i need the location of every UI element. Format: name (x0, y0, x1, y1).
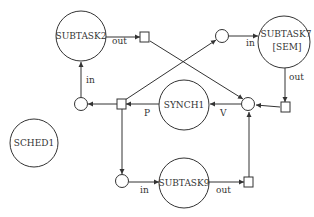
label-subtask2-in: in (86, 75, 95, 85)
transition-subtask7-out[interactable] (281, 102, 290, 112)
node-subtask2-label: SUBTASK2 (56, 31, 107, 41)
node-subtask9-label: SUBTASK9 (159, 178, 210, 188)
transition-subtask2-out[interactable] (140, 32, 149, 42)
label-synch1-v: V (219, 108, 227, 118)
label-subtask7-in: in (246, 38, 255, 48)
label-synch1-p: P (144, 108, 150, 118)
node-subtask2[interactable]: SUBTASK2 (56, 11, 107, 61)
node-synch1[interactable]: SYNCH1 (159, 80, 209, 130)
node-subtask7[interactable]: SUBTASK7 [SEM] (258, 16, 312, 68)
label-subtask7-out: out (289, 72, 304, 82)
node-subtask7-sublabel: [SEM] (273, 42, 302, 52)
place-v[interactable] (242, 98, 255, 111)
node-sched1-label: SCHED1 (14, 138, 54, 148)
label-subtask9-out: out (216, 185, 231, 195)
label-subtask2-out: out (112, 36, 127, 46)
node-subtask7-label: SUBTASK7 (261, 29, 312, 39)
transition-subtask9-out[interactable] (244, 177, 253, 187)
node-sched1[interactable]: SCHED1 (10, 119, 58, 167)
place-top[interactable] (216, 30, 229, 43)
place-left[interactable] (75, 98, 88, 111)
place-bottom[interactable] (116, 175, 129, 188)
node-subtask9[interactable]: SUBTASK9 (159, 158, 210, 208)
edge-transition-to-v-place-2 (256, 105, 280, 107)
petri-net-diagram: SUBTASK2 SUBTASK7 [SEM] SYNCH1 SCHED1 SU… (0, 0, 314, 217)
transition-p[interactable] (117, 99, 126, 109)
label-subtask9-in: in (140, 185, 149, 195)
node-synch1-label: SYNCH1 (164, 100, 204, 110)
